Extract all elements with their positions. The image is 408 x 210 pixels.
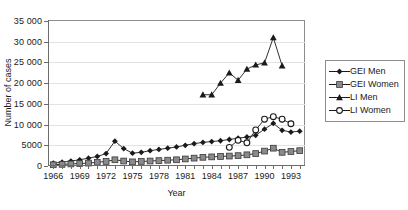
data-point	[156, 147, 162, 153]
data-point	[226, 153, 232, 159]
x-axis-tick	[71, 165, 72, 169]
legend-swatch	[329, 91, 350, 104]
x-axis-title: Year	[48, 188, 305, 198]
x-axis-tick	[88, 165, 89, 169]
data-point	[226, 144, 232, 150]
data-point	[121, 158, 127, 164]
x-axis-tick	[168, 165, 169, 169]
x-axis-tick	[247, 165, 248, 169]
x-axis-tick	[132, 165, 133, 169]
x-axis-tick	[291, 165, 292, 169]
data-point	[200, 154, 206, 160]
data-point	[262, 148, 268, 154]
x-axis-tick-label: 1990	[254, 172, 274, 181]
x-axis-tick	[229, 165, 230, 169]
x-axis-tick	[203, 165, 204, 169]
x-axis-tick	[62, 165, 63, 169]
x-axis-tick	[141, 165, 142, 169]
x-axis-tick-label: 1987	[228, 172, 248, 181]
data-point	[191, 155, 197, 161]
data-point	[103, 151, 109, 157]
data-point	[94, 154, 100, 160]
x-axis-tick	[273, 165, 274, 169]
data-point	[279, 149, 285, 155]
data-point	[337, 69, 343, 75]
y-axis-tick-label: 0	[37, 162, 42, 171]
legend-item-gei-men[interactable]: GEI Men	[329, 65, 399, 78]
y-axis-tick-label: 35 000	[14, 17, 42, 26]
x-axis-tick	[159, 165, 160, 169]
data-point	[336, 94, 343, 100]
data-point	[156, 158, 162, 164]
data-point	[226, 137, 232, 143]
x-axis-tick	[238, 165, 239, 169]
data-point	[261, 59, 268, 65]
data-point	[253, 127, 259, 133]
legend-swatch	[329, 78, 350, 91]
data-point	[244, 152, 250, 158]
data-point	[103, 159, 109, 165]
data-point	[279, 116, 285, 122]
plot-area: 0500010 00015 00020 00025 00030 00035 00…	[48, 20, 305, 165]
data-point	[130, 159, 136, 165]
y-axis-tick-label: 30 000	[14, 37, 42, 46]
data-point	[279, 62, 286, 68]
x-axis-tick	[282, 165, 283, 169]
x-axis-tick	[212, 165, 213, 169]
data-point	[182, 156, 188, 162]
chart-legend: GEI MenGEI WomenLI MenLI Women	[325, 60, 405, 122]
data-point	[209, 154, 215, 160]
x-axis-tick-label: 1981	[175, 172, 195, 181]
data-point	[270, 114, 276, 120]
series-line	[203, 38, 282, 95]
x-axis-tick	[265, 165, 266, 169]
data-point	[262, 116, 268, 122]
data-point	[253, 151, 259, 157]
data-point	[147, 158, 153, 164]
x-axis-tick	[177, 165, 178, 169]
legend-label: LI Women	[350, 104, 391, 117]
y-axis-title: Number of cases	[2, 20, 14, 165]
chart-figure: Number of cases 0500010 00015 00020 0002…	[0, 0, 408, 210]
x-axis-tick	[106, 165, 107, 169]
data-point	[191, 141, 197, 147]
legend-item-li-men[interactable]: LI Men	[329, 91, 399, 104]
data-point	[209, 139, 215, 145]
y-axis-tick-label: 15 000	[14, 99, 42, 108]
legend-item-gei-women[interactable]: GEI Women	[329, 78, 399, 91]
data-point	[244, 134, 250, 140]
data-point	[200, 139, 206, 145]
x-axis-ticks: 1966196919721975197819811984198719901993	[48, 165, 305, 187]
data-point	[288, 129, 294, 135]
data-point	[337, 108, 343, 114]
data-point	[297, 128, 303, 134]
data-point	[270, 34, 277, 40]
x-axis-tick	[115, 165, 116, 169]
x-axis-tick-label: 1984	[202, 172, 222, 181]
data-point	[182, 142, 188, 148]
series-li-men	[200, 34, 286, 97]
y-axis-tick-label: 10 000	[14, 120, 42, 129]
y-axis-tick-label: 25 000	[14, 58, 42, 67]
data-point	[112, 157, 118, 163]
data-point	[270, 145, 276, 151]
x-axis-tick	[80, 165, 81, 169]
x-axis-tick	[185, 165, 186, 169]
legend-label: LI Men	[350, 91, 378, 104]
x-axis-tick	[150, 165, 151, 169]
series-layer	[48, 21, 305, 166]
x-axis-tick-label: 1993	[281, 172, 301, 181]
legend-item-li-women[interactable]: LI Women	[329, 104, 399, 117]
x-axis-tick	[221, 165, 222, 169]
data-point	[226, 69, 233, 75]
data-point	[235, 137, 241, 143]
data-point	[218, 154, 224, 160]
x-axis-tick-label: 1975	[122, 172, 142, 181]
x-axis-tick-label: 1978	[149, 172, 169, 181]
data-point	[130, 150, 136, 156]
data-point	[297, 148, 303, 154]
data-point	[165, 157, 171, 163]
x-axis-tick	[300, 165, 301, 169]
data-point	[288, 121, 294, 127]
data-point	[174, 157, 180, 163]
